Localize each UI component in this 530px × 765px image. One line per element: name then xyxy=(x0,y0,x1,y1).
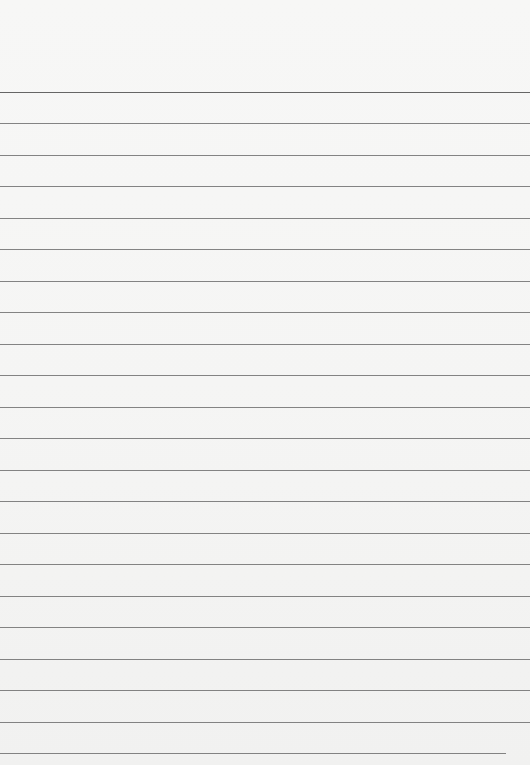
ruled-line xyxy=(0,596,530,597)
ruled-line xyxy=(0,375,530,376)
ruled-line xyxy=(0,659,530,660)
ruled-line xyxy=(0,123,530,124)
ruled-line xyxy=(0,312,530,313)
ruled-line xyxy=(0,564,530,565)
ruled-line xyxy=(0,186,530,187)
ruled-line xyxy=(0,218,530,219)
ruled-line xyxy=(0,407,530,408)
ruled-line xyxy=(0,281,530,282)
ruled-line xyxy=(0,627,530,628)
ruled-line xyxy=(0,344,530,345)
ruled-line xyxy=(0,92,530,93)
ruled-line xyxy=(0,722,530,723)
ruled-line xyxy=(0,533,530,534)
lined-paper-sheet xyxy=(0,0,530,765)
ruled-line xyxy=(0,501,530,502)
ruled-line xyxy=(0,690,530,691)
ruled-line xyxy=(0,470,530,471)
ruled-line xyxy=(0,249,530,250)
ruled-line xyxy=(0,155,530,156)
ruled-line xyxy=(0,753,506,754)
ruled-line xyxy=(0,438,530,439)
